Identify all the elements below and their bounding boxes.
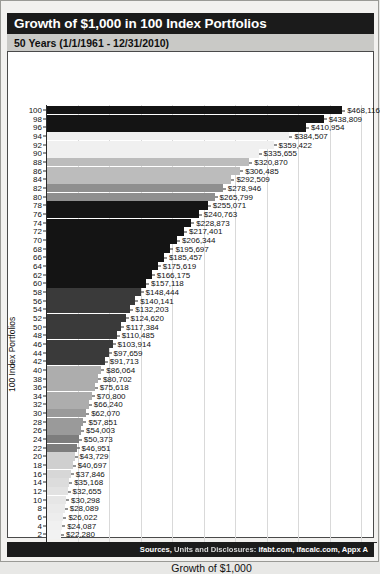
bar: [47, 426, 81, 434]
y-tick: [43, 291, 47, 292]
y-tick: [43, 188, 47, 189]
bar-row: 54$132,203: [47, 305, 130, 313]
bar-row: 6$26,022: [47, 513, 63, 521]
y-tick: [43, 153, 47, 154]
y-tick: [43, 144, 47, 145]
bar: [47, 244, 170, 252]
y-tick: [43, 248, 47, 249]
y-tick-label: 26: [33, 426, 42, 435]
bar-row: 42$91,713: [47, 357, 105, 365]
chart-subtitle: 50 Years (1/1/1961 - 12/31/2010): [7, 37, 169, 49]
bar-row: 24$50,373: [47, 435, 79, 443]
y-tick: [43, 491, 47, 492]
y-tick: [43, 465, 47, 466]
bar: [47, 123, 306, 131]
bar: [47, 253, 164, 261]
y-tick-label: 40: [33, 365, 42, 374]
bar-row: 92$359,422: [47, 141, 274, 149]
bar-row: 4$24,087: [47, 521, 62, 529]
y-tick-label: 28: [33, 417, 42, 426]
bar-value-label: $132,203: [135, 305, 168, 314]
bar: [47, 167, 240, 175]
gridline: [330, 105, 331, 543]
bar-value-label: $320,870: [254, 158, 287, 167]
bar-row: 12$32,655: [47, 487, 68, 495]
y-tick-label: 14: [33, 478, 42, 487]
bar: [47, 400, 89, 408]
bar-row: 18$40,697: [47, 461, 73, 469]
y-tick-label: 62: [33, 270, 42, 279]
y-tick: [43, 508, 47, 509]
y-tick-label: 8: [38, 504, 42, 513]
y-tick: [43, 205, 47, 206]
y-tick: [43, 214, 47, 215]
y-tick: [43, 430, 47, 431]
gridline: [361, 105, 362, 543]
y-tick-label: 38: [33, 374, 42, 383]
bar-value-label: $75,618: [100, 383, 129, 392]
y-tick: [43, 352, 47, 353]
bar: [47, 288, 141, 296]
bar: [47, 348, 109, 356]
y-tick: [43, 283, 47, 284]
bar-row: 10$30,298: [47, 496, 66, 504]
bar-row: 52$124,620: [47, 314, 126, 322]
bar-row: 30$62,070: [47, 409, 86, 417]
y-tick: [43, 162, 47, 163]
y-tick: [43, 118, 47, 119]
bar: [47, 444, 77, 452]
y-tick: [43, 127, 47, 128]
bar-row: 64$175,619: [47, 262, 158, 270]
bar: [47, 374, 98, 382]
bar-row: 88$320,870: [47, 158, 249, 166]
bar: [47, 461, 73, 469]
bar-row: 80$265,799: [47, 193, 215, 201]
y-tick-label: 78: [33, 201, 42, 210]
bar-value-label: $206,344: [182, 236, 215, 245]
bar-value-label: $32,655: [73, 487, 102, 496]
y-tick-label: 4: [38, 521, 42, 530]
y-tick: [43, 335, 47, 336]
y-tick-label: 44: [33, 348, 42, 357]
bar-value-label: $175,619: [163, 261, 196, 270]
bar-value-label: $22,280: [66, 530, 95, 539]
y-tick-label: 36: [33, 383, 42, 392]
y-tick-label: 64: [33, 261, 42, 270]
bar: [47, 184, 223, 192]
bar-value-label: $240,763: [204, 210, 237, 219]
bar: [47, 296, 135, 304]
bar-row: 32$66,240: [47, 400, 89, 408]
y-tick-label: 2: [38, 530, 42, 539]
chart-subtitle-bar: 50 Years (1/1/1961 - 12/31/2010): [7, 34, 374, 51]
bar-value-label: $70,800: [97, 391, 126, 400]
y-tick-label: 66: [33, 253, 42, 262]
bar-row: 94$384,507: [47, 132, 289, 140]
y-tick: [43, 179, 47, 180]
bar-row: 98$438,809: [47, 115, 324, 123]
bar-value-label: $410,954: [311, 123, 344, 132]
y-tick: [43, 317, 47, 318]
bar-row: 16$37,846: [47, 470, 71, 478]
y-tick: [43, 378, 47, 379]
y-axis-title: 100 Index Portfolios: [7, 270, 17, 284]
y-tick-label: 92: [33, 140, 42, 149]
bar: [47, 262, 158, 270]
bar-row: 66$185,457: [47, 253, 164, 261]
bar: [47, 193, 215, 201]
y-tick: [43, 274, 47, 275]
bar-value-label: $306,485: [245, 166, 278, 175]
bar-row: 100$468,116: [47, 106, 342, 114]
x-axis-title: Growth of $1,000: [46, 562, 377, 574]
y-tick: [43, 361, 47, 362]
bar: [47, 106, 342, 114]
y-tick-label: 84: [33, 175, 42, 184]
bar-row: 86$306,485: [47, 167, 240, 175]
bar-value-label: $54,003: [86, 426, 115, 435]
bar-value-label: $80,702: [103, 374, 132, 383]
bar-row: 68$195,697: [47, 244, 170, 252]
y-tick: [43, 257, 47, 258]
y-tick: [43, 473, 47, 474]
bar-value-label: $278,946: [228, 184, 261, 193]
bar: [47, 132, 289, 140]
chart-title: Growth of $1,000 in 100 Index Portfolios: [7, 16, 267, 31]
